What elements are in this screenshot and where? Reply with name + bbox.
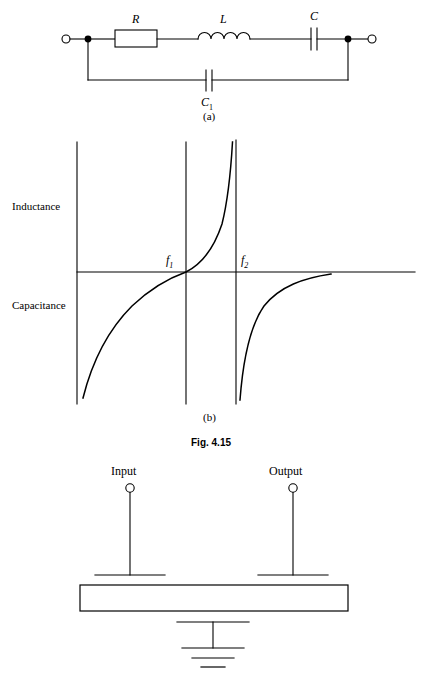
graph-curve-antiresonance-branch <box>240 274 331 400</box>
crystal-transducer-diagram <box>80 484 348 667</box>
resistor-label: R <box>132 12 139 27</box>
right-terminal-circle-icon <box>368 35 376 43</box>
figure-page: R L C C1 (a) Inductance Capacitance f1 f… <box>0 0 425 680</box>
input-label: Input <box>111 464 136 479</box>
inductance-axis-label: Inductance <box>12 200 60 212</box>
capacitor-c-symbol-icon <box>311 28 317 50</box>
input-terminal-circle-icon <box>126 484 134 492</box>
graph-curve-series-branch <box>83 142 233 398</box>
ground-symbol-icon <box>182 648 244 667</box>
f1-marker-label: f1 <box>166 250 173 270</box>
figure-caption: Fig. 4.15 <box>191 437 231 448</box>
f1-subscript: 1 <box>169 261 173 270</box>
f2-subscript: 2 <box>244 261 248 270</box>
output-label: Output <box>269 464 302 479</box>
part-b-label: (b) <box>203 411 216 423</box>
f2-marker-label: f2 <box>241 250 248 270</box>
capacitor-c1-symbol-icon <box>206 70 212 91</box>
left-terminal-circle-icon <box>62 35 70 43</box>
resistor-symbol-icon <box>115 30 157 47</box>
capacitance-axis-label: Capacitance <box>12 299 66 311</box>
circuit-diagram <box>62 28 376 91</box>
capacitor-c-label: C <box>310 9 318 24</box>
output-terminal-circle-icon <box>289 484 297 492</box>
reactance-graph <box>77 140 415 404</box>
part-a-label: (a) <box>203 110 215 122</box>
capacitor-c1-letter: C <box>201 95 209 109</box>
inductor-symbol-icon <box>198 33 250 40</box>
crystal-body-rectangle <box>80 585 348 611</box>
inductor-label: L <box>220 12 227 27</box>
